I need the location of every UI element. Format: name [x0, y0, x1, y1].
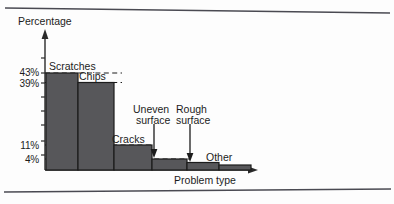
- bar-label-chips: Chips: [79, 70, 106, 82]
- x-axis-title: Problem type: [174, 174, 236, 186]
- bar-label-other: Other: [206, 151, 233, 163]
- y-axis-title: Percentage: [18, 15, 72, 27]
- bar-label-cracks: Cracks: [112, 133, 145, 145]
- y-tick-label-39: 39%: [20, 78, 40, 89]
- bar-cracks: [114, 145, 152, 170]
- y-tick-label-11: 11%: [20, 140, 39, 151]
- y-tick-label-43: 43%: [20, 67, 40, 78]
- pareto-chart-figure: Percentage Problem type 43% 39% 11% 4% S…: [0, 0, 394, 204]
- callout-label-rough-line2: surface: [176, 114, 211, 126]
- callout-label-uneven-line2: surface: [136, 114, 171, 126]
- bar-uneven-surface: [152, 159, 187, 170]
- y-tick-label-4: 4%: [25, 154, 39, 165]
- bar-rough-surface: [187, 163, 219, 171]
- bar-other: [219, 165, 251, 170]
- bar-scratches: [46, 73, 78, 170]
- bar-chips: [78, 83, 114, 171]
